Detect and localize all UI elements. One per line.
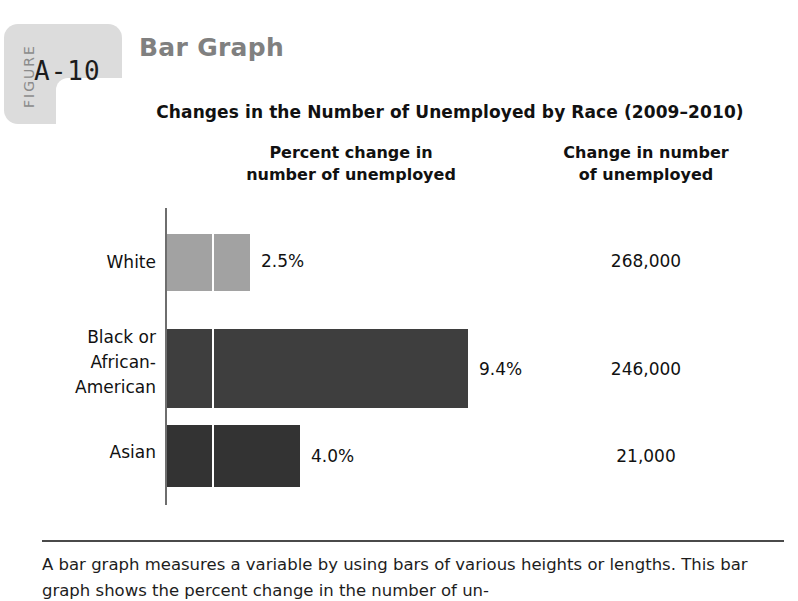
bar-category-label-black-african-american: Black or African- American xyxy=(6,325,156,400)
bar-white xyxy=(167,234,250,291)
bar-chart: Changes in the Number of Unemployed by R… xyxy=(0,0,798,601)
column-header-percent-line1: Percent change in xyxy=(206,142,496,164)
count-value-black-african-american: 246,000 xyxy=(506,359,786,379)
column-header-change-in-number: Change in number of unemployed xyxy=(506,142,786,186)
column-header-count-line2: of unemployed xyxy=(506,164,786,186)
bar-asian xyxy=(167,425,300,487)
caption-divider xyxy=(42,540,784,542)
bar-divider-black-african-american xyxy=(212,329,214,408)
bar-value-white: 2.5% xyxy=(261,251,304,271)
bar-category-label-asian: Asian xyxy=(6,440,156,465)
bar-category-label-asian-line1: Asian xyxy=(6,440,156,465)
chart-title: Changes in the Number of Unemployed by R… xyxy=(120,102,780,122)
bar-divider-white xyxy=(212,234,214,291)
bar-black-african-american xyxy=(167,329,468,408)
bar-category-label-black-line2: African- xyxy=(6,350,156,375)
bar-category-label-white-line1: White xyxy=(6,250,156,275)
column-header-count-line1: Change in number xyxy=(506,142,786,164)
count-value-white: 268,000 xyxy=(506,251,786,271)
bar-category-label-white: White xyxy=(6,250,156,275)
bar-divider-asian xyxy=(212,425,214,487)
column-header-percent-line2: number of unemployed xyxy=(206,164,496,186)
bar-category-label-black-line1: Black or xyxy=(6,325,156,350)
bar-category-label-black-line3: American xyxy=(6,375,156,400)
count-value-asian: 21,000 xyxy=(506,446,786,466)
figure-caption: A bar graph measures a variable by using… xyxy=(42,552,772,601)
column-header-percent-change: Percent change in number of unemployed xyxy=(206,142,496,186)
bar-value-asian: 4.0% xyxy=(311,446,354,466)
